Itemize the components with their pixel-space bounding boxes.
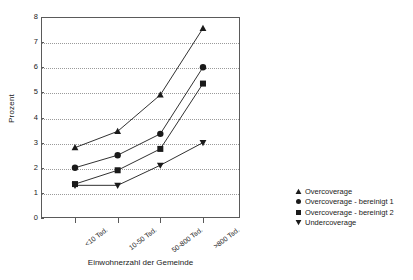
y-tick-label-2: 2	[24, 164, 38, 172]
x-tick-label-1: 10-50 Tsd.	[127, 226, 157, 251]
x-axis-title: Einwohnerzahl der Gemeinde	[41, 258, 240, 267]
gridline-2	[42, 169, 239, 170]
x-tick-label-0: <10 Tsd.	[83, 226, 108, 248]
chart-legend: Overcoverage Overcoverage - bereinigt 1 …	[292, 186, 412, 228]
y-tick-label-8: 8	[24, 13, 38, 21]
y-tick-mark-2	[41, 168, 44, 169]
square-icon	[292, 209, 305, 216]
y-tick-mark-5	[41, 92, 44, 93]
y-tick-label-5: 5	[24, 88, 38, 96]
y-tick-mark-6	[41, 67, 44, 68]
legend-item-overcoverage-bereinigt-1[interactable]: Overcoverage - bereinigt 1	[292, 197, 412, 208]
x-tick-mark-3	[203, 218, 204, 223]
gridline-7	[42, 43, 239, 44]
circle-icon	[292, 198, 305, 205]
legend-label-1: Overcoverage - bereinigt 1	[305, 197, 394, 206]
legend-item-overcoverage-bereinigt-2[interactable]: Overcoverage - bereinigt 2	[292, 207, 412, 218]
chart-figure: 8 7 6 5 4 3 2 1 0 Prozent <10 Tsd. 10-50…	[0, 0, 413, 280]
y-tick-mark-3	[41, 143, 44, 144]
y-tick-mark-4	[41, 118, 44, 119]
y-axis-title: Prozent	[7, 79, 16, 139]
y-tick-label-4: 4	[24, 114, 38, 122]
y-tick-mark-8	[41, 17, 44, 18]
y-tick-label-6: 6	[24, 63, 38, 71]
y-tick-mark-1	[41, 193, 44, 194]
y-axis-tick-labels: 8 7 6 5 4 3 2 1 0	[20, 0, 38, 280]
gridline-4	[42, 119, 239, 120]
plot-area	[41, 17, 240, 218]
gridline-6	[42, 68, 239, 69]
x-tick-mark-1	[118, 218, 119, 223]
y-tick-mark-0	[41, 218, 44, 219]
y-tick-label-3: 3	[24, 139, 38, 147]
legend-label-0: Overcoverage	[305, 187, 352, 196]
y-tick-mark-7	[41, 42, 44, 43]
gridline-3	[42, 144, 239, 145]
x-tick-mark-0	[75, 218, 76, 223]
y-tick-label-7: 7	[24, 38, 38, 46]
gridline-5	[42, 93, 239, 94]
x-tick-label-3: >800 Tsd.	[212, 226, 241, 250]
gridline-1	[42, 194, 239, 195]
legend-item-undercoverage[interactable]: Undercoverage	[292, 218, 412, 229]
legend-label-2: Overcoverage - bereinigt 2	[305, 208, 394, 217]
y-tick-label-0: 0	[24, 214, 38, 222]
y-tick-label-1: 1	[24, 189, 38, 197]
legend-item-overcoverage[interactable]: Overcoverage	[292, 186, 412, 197]
x-tick-label-2: 50-800 Tsd.	[171, 226, 204, 254]
triangle-up-icon	[292, 188, 305, 195]
legend-label-3: Undercoverage	[305, 218, 356, 227]
triangle-down-icon	[292, 219, 305, 226]
x-tick-mark-2	[160, 218, 161, 223]
